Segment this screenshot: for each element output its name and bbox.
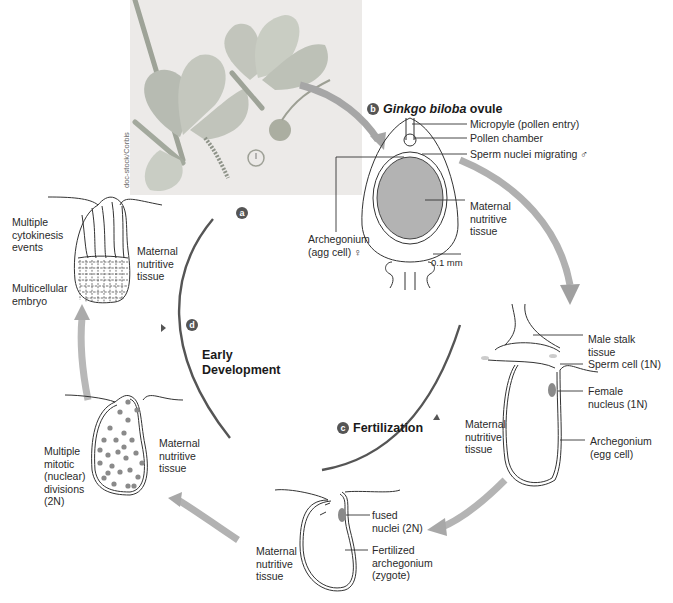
- species-name: Ginkgo biloba: [383, 102, 466, 116]
- label-sperm-cell: Sperm cell (1N): [588, 358, 661, 371]
- stage-d-title-text: Early Development: [202, 348, 281, 378]
- label-fert-maternal-tissue: Maternal nutritive tissue: [465, 418, 506, 456]
- label-ovule-maternal-tissue: Maternal nutritive tissue: [470, 200, 511, 238]
- label-zygote-maternal-tissue: Maternal nutritive tissue: [256, 545, 297, 583]
- stage-b-title-rest: ovule: [466, 102, 502, 116]
- label-ovule-archegonium: Archegonium (agg cell) ♀: [308, 233, 370, 258]
- female-nucleus: [548, 383, 556, 397]
- stage-c-title-text: Fertilization: [353, 421, 423, 435]
- label-fert-archegonium: Archegonium (egg cell): [590, 435, 652, 460]
- label-female-nucleus: Female nucleus (1N): [588, 385, 648, 410]
- fused-nuclei: [338, 508, 346, 522]
- label-cytokinesis: Multiple cytokinesis events: [12, 216, 63, 254]
- label-multicellular-embryo: Multicellular embryo: [12, 282, 67, 307]
- stage-b-badge: b: [367, 103, 379, 115]
- arc-fertilization: [322, 325, 460, 470]
- arc-arrowhead: [161, 324, 166, 332]
- fertilization-drawing: [488, 304, 598, 486]
- stage-b-title: bGinkgo biloba ovule: [367, 87, 502, 117]
- label-fused-nuclei: fused nuclei (2N): [372, 509, 423, 534]
- label-embryo-maternal-tissue: Maternal nutritive tissue: [137, 245, 178, 283]
- arc-arrowhead: [433, 414, 440, 420]
- stage-d-title: d Early Development: [186, 318, 281, 393]
- stage-a-badge: a: [236, 207, 248, 219]
- stage-d-badge: d: [186, 319, 198, 331]
- diagram-graphics: [0, 0, 673, 603]
- label-pollen-chamber: Pollen chamber: [470, 132, 543, 145]
- label-micropyle: Micropyle (pollen entry): [470, 118, 579, 131]
- label-mitotic-maternal-tissue: Maternal nutritive tissue: [159, 437, 200, 475]
- ginkgo-life-cycle-figure: doc-stock/Corbis: [0, 0, 673, 603]
- scale-bar-label: 0.1 mm: [431, 257, 463, 270]
- label-male-stalk: Male stalk tissue: [588, 333, 635, 358]
- stage-c-badge: c: [337, 422, 349, 434]
- label-mitotic-divisions: Multiple mitotic (nuclear) divisions (2N…: [44, 445, 85, 508]
- label-sperm-nuclei-migrating: Sperm nuclei migrating ♂: [470, 148, 588, 161]
- plant-illustration: [135, 0, 330, 191]
- label-fertilized-archegonium: Fertilized archegonium (zygote): [372, 544, 433, 582]
- embryo-cells: [78, 260, 128, 302]
- stage-c-title: cFertilization: [337, 406, 423, 436]
